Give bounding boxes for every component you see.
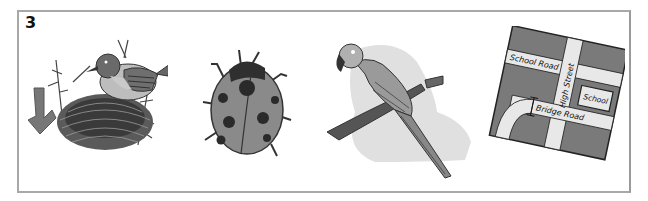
ladybird-picture (195, 40, 300, 160)
map-picture: School Road High Street School Bridge Ro… (485, 26, 625, 166)
bird-nest-picture (28, 30, 168, 160)
parrot-picture (325, 32, 475, 182)
